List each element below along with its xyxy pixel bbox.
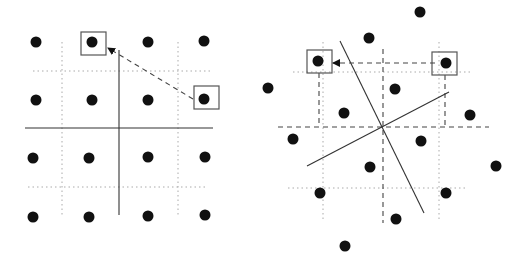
- lattice-point: [416, 136, 427, 147]
- lattice-point: [84, 153, 95, 164]
- lattice-point: [263, 83, 274, 94]
- lattice-point: [87, 37, 98, 48]
- lattice-point: [87, 95, 98, 106]
- lattice-point: [143, 152, 154, 163]
- lattice-point: [31, 95, 42, 106]
- right-panel-rotated-lattice: [263, 7, 502, 252]
- lattice-point: [313, 56, 324, 67]
- lattice-point: [441, 58, 452, 69]
- lattice-point: [200, 210, 211, 221]
- lattice-point: [391, 214, 402, 225]
- lattice-point: [28, 153, 39, 164]
- lattice-point: [415, 7, 426, 18]
- dashed-arrow: [108, 48, 193, 99]
- lattice-point: [28, 212, 39, 223]
- lattice-point: [365, 162, 376, 173]
- left-panel-square-lattice: [25, 32, 219, 223]
- lattice-point: [390, 84, 401, 95]
- lattice-point: [200, 152, 211, 163]
- lattice-point: [199, 36, 210, 47]
- lattice-point: [199, 94, 210, 105]
- lattice-point: [143, 95, 154, 106]
- lattice-point: [441, 188, 452, 199]
- lattice-point: [339, 108, 350, 119]
- lattice-point: [491, 161, 502, 172]
- lattice-point: [143, 37, 154, 48]
- lattice-point: [31, 37, 42, 48]
- lattice-point: [364, 33, 375, 44]
- lattice-point: [143, 211, 154, 222]
- lattice-point: [340, 241, 351, 252]
- lattice-point: [465, 110, 476, 121]
- lattice-point: [288, 134, 299, 145]
- lattice-point: [315, 188, 326, 199]
- lattice-diagram: [0, 0, 521, 257]
- axis-line: [307, 92, 449, 166]
- lattice-point: [84, 212, 95, 223]
